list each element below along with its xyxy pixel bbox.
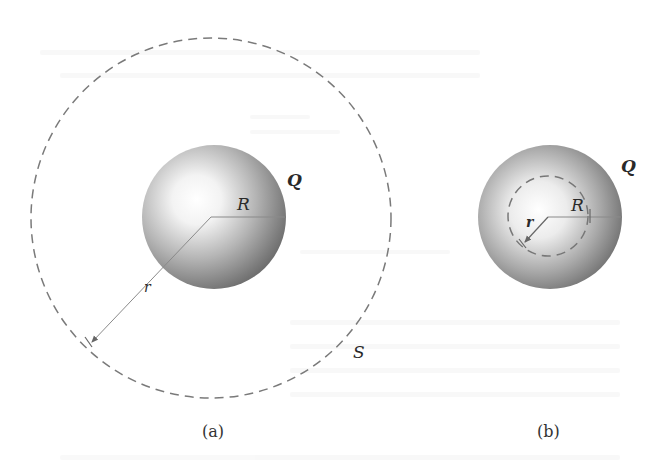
label-r-a: r — [144, 279, 152, 295]
label-R-a: R — [236, 194, 250, 214]
panel-a: R Q r S (a) — [31, 38, 391, 441]
label-Q-b: Q — [621, 156, 636, 176]
caption-a: (a) — [202, 422, 224, 441]
label-Q-a: Q — [287, 170, 302, 190]
label-S: S — [353, 342, 365, 362]
radius-r-tick-a — [85, 337, 92, 347]
label-R-b: R — [570, 195, 584, 215]
gauss-law-figure: R Q r S (a) R Q r (b) — [0, 0, 666, 473]
caption-b: (b) — [537, 422, 560, 441]
